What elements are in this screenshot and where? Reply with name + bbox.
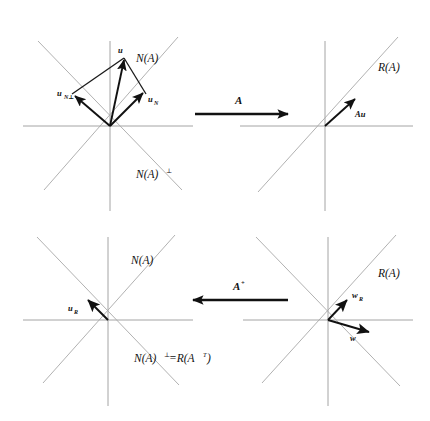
svg-text:N⊥: N⊥ <box>63 94 74 100</box>
label-vector-w: w <box>350 333 356 343</box>
vector-u-range <box>88 300 108 320</box>
svg-text:R: R <box>73 309 78 315</box>
panel-bottom-right: w R w R(A) <box>243 235 413 406</box>
vector-u-null-perp <box>75 96 110 126</box>
svg-text:⊥: ⊥ <box>166 167 172 174</box>
svg-text:N(A): N(A) <box>133 352 157 365</box>
svg-text:R: R <box>358 296 363 302</box>
svg-text:+: + <box>241 279 245 286</box>
label-vector-u: u <box>118 45 123 55</box>
label-range-top-right: R(A) <box>377 61 400 74</box>
forward-map-label: A <box>234 94 242 106</box>
forward-map-arrow-group: A <box>195 94 288 114</box>
label-vector-w-range: w R <box>352 290 363 302</box>
pseudoinverse-map-label: A + <box>232 279 245 292</box>
vector-w-range <box>328 300 347 320</box>
svg-text:): ) <box>206 352 211 365</box>
svg-text:N(A): N(A) <box>135 168 159 181</box>
panel-top-left: u u N⊥ u N N(A) N(A) ⊥ <box>23 37 193 211</box>
svg-text:=R(A: =R(A <box>169 352 196 365</box>
label-null-space-bottom-left: N(A) <box>130 254 154 267</box>
label-vector-u-null: u N <box>148 94 159 106</box>
parallelogram-edge-u-to-unperp <box>72 58 124 94</box>
label-vector-u-range: u R <box>68 303 78 315</box>
pseudoinverse-map-arrow-group: A + <box>193 279 288 300</box>
svg-text:A: A <box>232 280 240 292</box>
panel-top-right: Au R(A) <box>240 37 413 211</box>
vector-w <box>328 320 369 332</box>
subspace-diagram-canvas: u u N⊥ u N N(A) N(A) ⊥ A Au R(A) <box>0 0 430 421</box>
svg-text:u: u <box>68 303 73 313</box>
label-vector-Au: Au <box>354 109 366 119</box>
svg-text:u: u <box>57 88 62 98</box>
svg-text:w: w <box>352 290 358 300</box>
label-null-space-perp-equality: N(A) ⊥ =R(A T ) <box>133 351 211 365</box>
label-vector-u-null-perp: u N⊥ <box>57 88 74 100</box>
svg-text:u: u <box>148 94 153 104</box>
label-range-bottom-right: R(A) <box>377 267 400 280</box>
svg-text:N: N <box>153 100 159 106</box>
panel-bottom-left: u R N(A) N(A) ⊥ =R(A T ) <box>23 235 211 406</box>
figure-root: u u N⊥ u N N(A) N(A) ⊥ A Au R(A) <box>0 0 430 421</box>
vector-u <box>110 60 124 126</box>
label-null-space-top-left: N(A) <box>135 52 159 65</box>
